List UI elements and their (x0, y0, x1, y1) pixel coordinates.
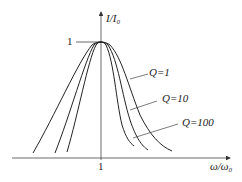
curve-q10 (55, 42, 148, 153)
curve-q1 (33, 42, 172, 153)
resonance-diagram (0, 0, 242, 182)
y-axis-label: I/I₀ (106, 12, 120, 24)
label-q100: Q=100 (182, 116, 214, 128)
y-tick-label: 1 (67, 35, 73, 47)
label-q1: Q=1 (149, 66, 170, 78)
leader-q100 (133, 124, 178, 138)
x-axis-label: ω/ω₀ (210, 160, 232, 172)
leader-q10 (130, 101, 157, 110)
x-tick-label: 1 (98, 160, 104, 172)
leader-q1 (130, 74, 148, 79)
label-q10: Q=10 (162, 92, 188, 104)
